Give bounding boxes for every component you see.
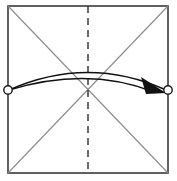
reference-point-left bbox=[4, 86, 12, 94]
origami-diagram bbox=[0, 0, 177, 181]
reference-point-right bbox=[164, 86, 172, 94]
origami-diagram-canvas bbox=[0, 0, 177, 181]
